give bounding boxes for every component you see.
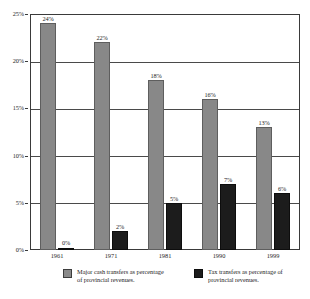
legend-item-label: Tax transfers as percentage of provincia…	[208, 268, 300, 284]
grey-swatch-icon	[63, 269, 72, 278]
y-tick-label: 20%	[13, 58, 24, 64]
bar-group: 18%5%	[138, 14, 192, 250]
bar-group: 24%0%	[30, 14, 84, 250]
y-tick-mark	[25, 108, 28, 109]
y-tick-mark	[25, 250, 28, 251]
y-tick-label: 10%	[13, 152, 24, 158]
bar: 18%	[148, 80, 164, 250]
x-tick-label: 1961	[51, 252, 64, 260]
bar-value-label: 13%	[258, 120, 269, 126]
y-tick-mark	[25, 203, 28, 204]
bar-value-label: 18%	[150, 73, 161, 79]
bar-value-label: 2%	[116, 224, 124, 230]
bar-value-label: 16%	[204, 92, 215, 98]
bar: 2%	[112, 231, 128, 250]
bar: 16%	[202, 99, 218, 250]
y-tick-label: 25%	[13, 11, 24, 17]
y-tick-label: 5%	[16, 200, 24, 206]
black-swatch-icon	[194, 269, 203, 278]
bar-group: 22%2%	[84, 14, 138, 250]
bar-group: 13%6%	[246, 14, 300, 250]
legend-item-tax-transfers: Tax transfers as percentage of provincia…	[194, 268, 300, 284]
bar: 0%	[58, 248, 74, 251]
bar-value-label: 5%	[170, 196, 178, 202]
legend-item-label: Major cash transfers as percentage of pr…	[77, 268, 169, 284]
y-tick-mark	[25, 14, 28, 15]
bar-chart-figure: 0%5%10%15%20%25% 24%0%22%2%18%5%16%7%13%…	[0, 0, 310, 299]
bar: 22%	[94, 42, 110, 250]
x-axis: 19611971198119901999	[30, 252, 300, 264]
x-tick-label: 1999	[267, 252, 280, 260]
y-tick-mark	[25, 61, 28, 62]
y-tick-mark	[25, 156, 28, 157]
bar-value-label: 24%	[42, 16, 53, 22]
y-tick-label: 0%	[16, 247, 24, 253]
bar: 13%	[256, 127, 272, 250]
bar: 6%	[274, 193, 290, 250]
x-tick-label: 1981	[159, 252, 172, 260]
bar-value-label: 0%	[62, 240, 70, 246]
x-tick-label: 1971	[105, 252, 118, 260]
bar: 5%	[166, 203, 182, 250]
bar: 7%	[220, 184, 236, 250]
chart-legend: Major cash transfers as percentage of pr…	[30, 268, 310, 294]
bar: 24%	[40, 23, 56, 250]
x-tick-label: 1990	[213, 252, 226, 260]
bar-value-label: 22%	[96, 35, 107, 41]
bar-group: 16%7%	[192, 14, 246, 250]
bars-layer: 24%0%22%2%18%5%16%7%13%6%	[30, 14, 300, 250]
bar-value-label: 6%	[278, 186, 286, 192]
y-axis: 0%5%10%15%20%25%	[0, 14, 28, 250]
legend-item-major-cash-transfers: Major cash transfers as percentage of pr…	[63, 268, 169, 284]
bar-value-label: 7%	[224, 177, 232, 183]
y-tick-label: 15%	[13, 105, 24, 111]
